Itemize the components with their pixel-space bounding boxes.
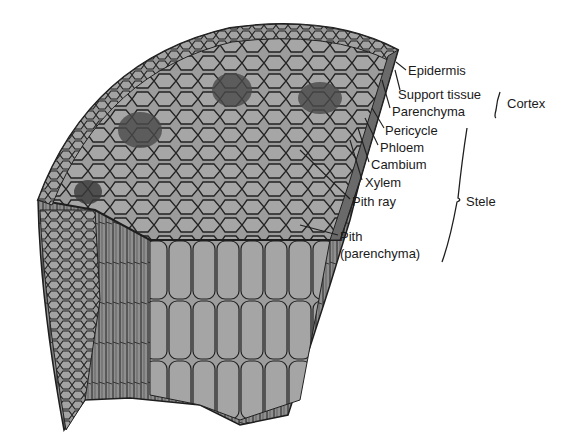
label-cambium: Cambium <box>371 157 427 172</box>
stele-brace <box>442 128 467 262</box>
label-xylem: Xylem <box>365 175 401 190</box>
stem-illustration <box>0 0 579 448</box>
label-support-tissue: Support tissue <box>398 87 481 102</box>
group-label-stele: Stele <box>466 194 496 209</box>
cortex-brace <box>495 92 500 118</box>
group-label-cortex: Cortex <box>507 96 545 111</box>
vascular-bundle <box>298 82 342 114</box>
vascular-bundle <box>212 73 252 107</box>
vascular-bundle <box>118 112 162 148</box>
label-parenchyma: Parenchyma <box>392 104 465 119</box>
label-pith-parenchyma: (parenchyma) <box>340 246 420 261</box>
label-pith-ray: Pith ray <box>352 194 396 209</box>
vascular-bundle <box>74 180 102 204</box>
label-pith: Pith <box>340 229 362 244</box>
label-pericycle: Pericycle <box>385 123 438 138</box>
stem-diagram: Epidermis Support tissue Parenchyma Peri… <box>0 0 579 448</box>
label-phloem: Phloem <box>380 140 424 155</box>
label-epidermis: Epidermis <box>408 63 466 78</box>
